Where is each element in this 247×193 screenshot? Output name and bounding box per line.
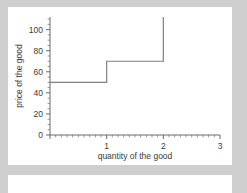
x-axis-tick-labels: 123	[104, 141, 222, 151]
y-tick-label: 0	[38, 130, 43, 140]
y-tick-label: 100	[29, 25, 43, 35]
x-tick-label: 2	[161, 141, 166, 151]
chart-card: 020406080100 123 quantity of the good pr…	[8, 7, 232, 165]
x-axis-title: quantity of the good	[98, 151, 173, 161]
data-series-group	[50, 17, 163, 82]
series-step-line	[50, 17, 163, 82]
y-tick-label: 40	[34, 88, 44, 98]
y-axis: 020406080100	[29, 17, 50, 140]
chart-plot-container: 020406080100 123 quantity of the good pr…	[8, 7, 232, 165]
x-tick-label: 1	[104, 141, 109, 151]
page-root: 020406080100 123 quantity of the good pr…	[0, 0, 247, 193]
y-tick-label: 20	[34, 109, 44, 119]
y-tick-label: 80	[34, 46, 44, 56]
step-chart: 020406080100 123 quantity of the good pr…	[8, 7, 232, 165]
next-card	[8, 175, 232, 193]
x-axis: 123	[50, 135, 223, 151]
x-tick-label: 3	[218, 141, 223, 151]
y-axis-title: price of the good	[14, 44, 24, 108]
y-tick-label: 60	[34, 67, 44, 77]
y-axis-tick-labels: 020406080100	[29, 25, 43, 140]
